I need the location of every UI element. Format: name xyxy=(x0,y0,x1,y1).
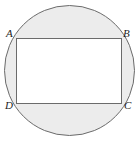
vertex-label-b: B xyxy=(123,28,130,39)
vertex-label-c: C xyxy=(124,100,131,111)
figure-vector-graphic xyxy=(0,0,138,144)
vertex-label-d: D xyxy=(5,100,13,111)
vertex-label-a: A xyxy=(6,28,13,39)
inscribed-rectangle xyxy=(17,39,122,104)
geometry-figure: A B C D xyxy=(0,0,138,144)
